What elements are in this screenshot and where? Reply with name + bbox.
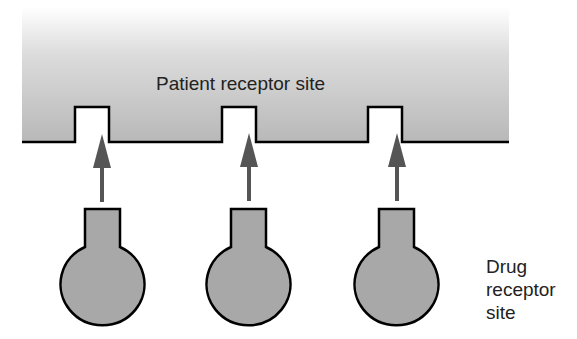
drug-label-line-1: Drug bbox=[486, 255, 556, 278]
drug-label-line-3: site bbox=[486, 301, 556, 324]
drug-molecule-3 bbox=[355, 209, 439, 325]
drug-label-line-2: receptor bbox=[486, 278, 556, 301]
patient-receptor-site-label: Patient receptor site bbox=[156, 72, 325, 95]
drug-receptor-site-label: Drug receptor site bbox=[486, 255, 556, 324]
drug-molecule-2 bbox=[207, 209, 291, 325]
arrow-icon bbox=[93, 134, 111, 202]
drug-molecule-1 bbox=[61, 209, 145, 325]
